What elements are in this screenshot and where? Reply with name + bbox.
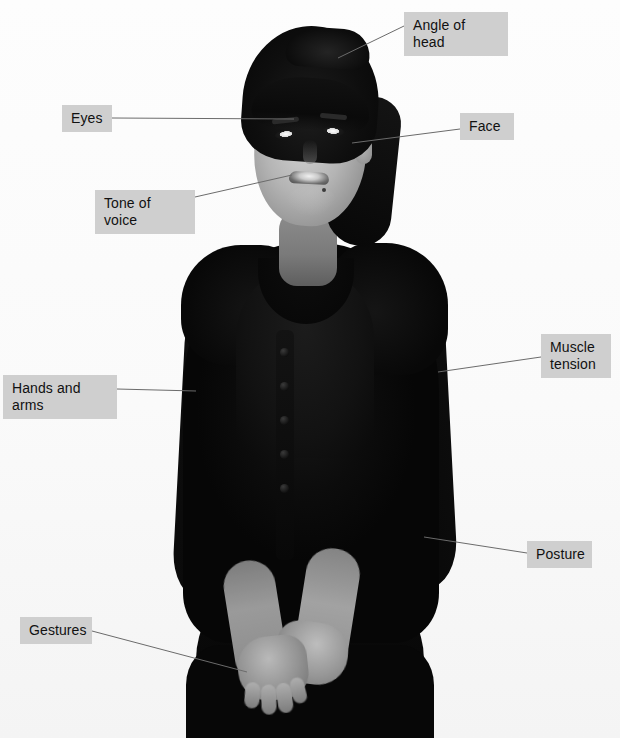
callout-label-muscle-tension[interactable]: Muscle tension bbox=[541, 334, 611, 378]
nose-shape bbox=[303, 140, 317, 164]
button-shape bbox=[280, 348, 289, 357]
button-shape bbox=[280, 382, 289, 391]
body-language-diagram: Angle of headEyesFaceTone of voiceMuscle… bbox=[0, 0, 620, 738]
button-shape bbox=[280, 484, 289, 493]
mouth-shape bbox=[289, 171, 330, 185]
button-shape bbox=[280, 450, 289, 459]
chin-highlight-shape bbox=[286, 186, 336, 216]
callout-label-gestures[interactable]: Gestures bbox=[20, 617, 92, 644]
mole-shape bbox=[322, 188, 326, 192]
button-placket-shape bbox=[276, 330, 294, 560]
hair-bun-shape bbox=[285, 25, 372, 71]
finger-shape bbox=[261, 684, 277, 715]
callout-label-posture[interactable]: Posture bbox=[527, 541, 592, 568]
callout-label-hands-and-arms[interactable]: Hands and arms bbox=[3, 375, 117, 419]
callout-label-angle-of-head[interactable]: Angle of head bbox=[404, 12, 508, 56]
finger-shape bbox=[244, 682, 261, 709]
callout-label-eyes[interactable]: Eyes bbox=[62, 105, 112, 132]
callout-label-tone-of-voice[interactable]: Tone of voice bbox=[95, 190, 195, 234]
button-shape bbox=[280, 416, 289, 425]
callout-label-face[interactable]: Face bbox=[460, 113, 514, 140]
